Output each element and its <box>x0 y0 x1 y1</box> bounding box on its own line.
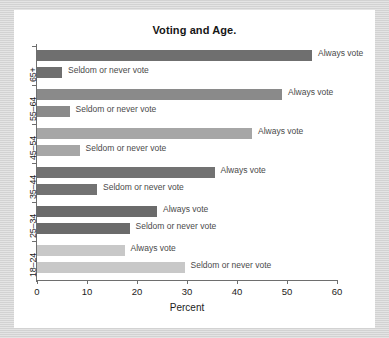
bar-row: Seldom or never vote <box>37 145 337 156</box>
plot-area: 65+Always voteSeldom or never vote55–64A… <box>37 46 337 280</box>
bar-row: Always vote <box>37 89 337 100</box>
y-axis-tick <box>32 202 37 203</box>
x-axis-title: Percent <box>37 302 337 313</box>
bar-row: Always vote <box>37 50 337 61</box>
bar-group-35-44: 35–44Always voteSeldom or never vote <box>37 163 337 202</box>
x-axis-tick <box>87 280 88 284</box>
bar-value-label: Seldom or never vote <box>103 182 184 192</box>
bar-row: Always vote <box>37 245 337 256</box>
y-axis-tick <box>32 241 37 242</box>
x-axis-tick <box>187 280 188 284</box>
bar[interactable] <box>37 245 125 256</box>
bar-row: Seldom or never vote <box>37 223 337 234</box>
bar[interactable] <box>37 262 185 273</box>
bar-value-label: Seldom or never vote <box>191 260 272 270</box>
bar[interactable] <box>37 106 70 117</box>
bar[interactable] <box>37 145 80 156</box>
x-axis-tick <box>237 280 238 284</box>
bar-group-55-64: 55–64Always voteSeldom or never vote <box>37 85 337 124</box>
y-axis-tick <box>32 163 37 164</box>
bar-row: Always vote <box>37 128 337 139</box>
bar[interactable] <box>37 50 312 61</box>
x-tick-label: 60 <box>325 286 349 297</box>
bar-row: Seldom or never vote <box>37 184 337 195</box>
bar-group-45-54: 45–54Always voteSeldom or never vote <box>37 124 337 163</box>
y-axis-tick <box>32 46 37 47</box>
bar[interactable] <box>37 223 130 234</box>
x-axis-tick <box>337 280 338 284</box>
x-tick-label: 10 <box>75 286 99 297</box>
bar-value-label: Always vote <box>221 165 266 175</box>
x-tick-label: 20 <box>125 286 149 297</box>
bar-row: Seldom or never vote <box>37 67 337 78</box>
bar-row: Seldom or never vote <box>37 106 337 117</box>
bar-value-label: Always vote <box>258 126 303 136</box>
bar[interactable] <box>37 128 252 139</box>
bar-group-25-34: 25–34Always voteSeldom or never vote <box>37 202 337 241</box>
bar[interactable] <box>37 89 282 100</box>
bar-group-65-: 65+Always voteSeldom or never vote <box>37 46 337 85</box>
chart-title: Voting and Age. <box>14 24 375 36</box>
bar-group-18-24: 18–24Always voteSeldom or never vote <box>37 241 337 280</box>
bar-value-label: Seldom or never vote <box>76 104 157 114</box>
bar[interactable] <box>37 67 62 78</box>
bar-value-label: Always vote <box>318 48 363 58</box>
bar[interactable] <box>37 167 215 178</box>
bar-row: Seldom or never vote <box>37 262 337 273</box>
bar-value-label: Always vote <box>288 87 333 97</box>
bar[interactable] <box>37 184 97 195</box>
chart-card: Voting and Age. 65+Always voteSeldom or … <box>14 10 375 328</box>
bar-value-label: Seldom or never vote <box>136 221 217 231</box>
x-tick-label: 40 <box>225 286 249 297</box>
bar-row: Always vote <box>37 167 337 178</box>
bar-value-label: Seldom or never vote <box>68 65 149 75</box>
bar-value-label: Always vote <box>131 243 176 253</box>
x-tick-label: 50 <box>275 286 299 297</box>
bar-value-label: Seldom or never vote <box>86 143 167 153</box>
bar-value-label: Always vote <box>163 204 208 214</box>
y-axis-tick <box>32 124 37 125</box>
x-axis-tick <box>287 280 288 284</box>
x-axis-tick <box>37 280 38 284</box>
y-axis-tick <box>32 85 37 86</box>
x-tick-label: 0 <box>25 286 49 297</box>
x-axis-tick <box>137 280 138 284</box>
bar[interactable] <box>37 206 157 217</box>
bar-row: Always vote <box>37 206 337 217</box>
x-tick-label: 30 <box>175 286 199 297</box>
